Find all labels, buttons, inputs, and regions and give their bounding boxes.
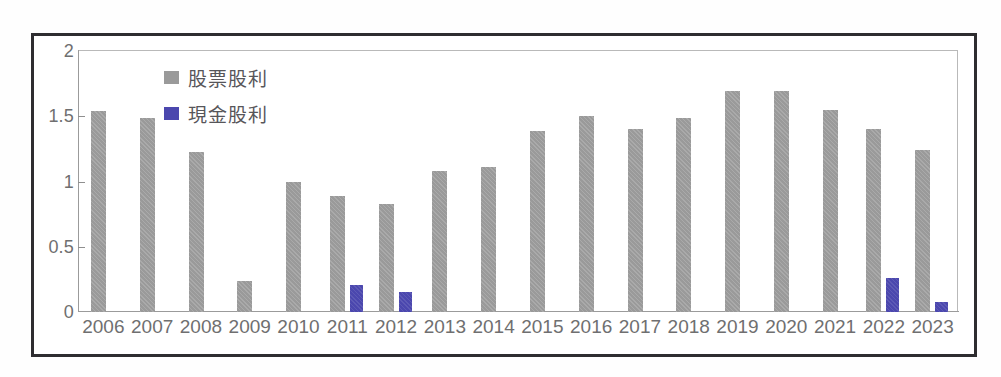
y-axis-tick-labels: 00.511.52 (34, 36, 74, 354)
bar-stock-dividend-2020 (774, 91, 789, 312)
x-axis-tick-2008: 2008 (180, 316, 222, 338)
bar-group-2011 (323, 51, 372, 312)
bar-group-2010 (274, 51, 323, 312)
bar-stock-dividend-2021 (823, 110, 838, 312)
bar-group-2018 (664, 51, 713, 312)
y-axis-tick-1: 1 (36, 171, 74, 192)
legend-item-cash-dividend: 現金股利 (164, 100, 268, 127)
x-axis-tick-2011: 2011 (327, 316, 368, 338)
bar-stock-dividend-2013 (432, 171, 447, 312)
bar-stock-dividend-2016 (579, 116, 594, 312)
bar-group-2017 (616, 51, 665, 312)
x-axis-tick-2014: 2014 (472, 316, 514, 338)
bar-group-2012 (372, 51, 421, 312)
chart-legend: 股票股利 現金股利 (164, 64, 268, 127)
bar-cash-dividend-2012 (399, 292, 412, 312)
bar-cash-dividend-2023 (935, 302, 948, 312)
x-axis-tick-2015: 2015 (521, 316, 563, 338)
legend-label-cash-dividend: 現金股利 (188, 100, 268, 127)
x-axis-tick-2018: 2018 (668, 316, 710, 338)
x-axis-tick-2023: 2023 (911, 316, 953, 338)
bar-group-2014 (469, 51, 518, 312)
x-axis-tick-2007: 2007 (131, 316, 173, 338)
x-axis-tick-2017: 2017 (619, 316, 661, 338)
bar-group-2020 (762, 51, 811, 312)
x-axis-tick-2012: 2012 (375, 316, 417, 338)
bar-stock-dividend-2012 (379, 204, 394, 312)
bar-stock-dividend-2008 (189, 152, 204, 313)
y-axis-tick-mark (78, 116, 85, 117)
x-axis-tick-labels: 2006200720082009201020112012201320142015… (79, 316, 957, 350)
legend-label-stock-dividend: 股票股利 (188, 64, 268, 91)
bar-group-2023 (908, 51, 957, 312)
x-axis-tick-2016: 2016 (570, 316, 612, 338)
y-axis-tick-1.5: 1.5 (36, 106, 74, 127)
bar-stock-dividend-2007 (140, 118, 155, 312)
bar-stock-dividend-2022 (866, 129, 881, 312)
bar-group-2006 (79, 51, 128, 312)
bar-stock-dividend-2009 (237, 281, 252, 312)
y-axis-tick-0.5: 0.5 (36, 236, 74, 257)
x-axis-tick-2019: 2019 (716, 316, 758, 338)
x-axis-tick-2013: 2013 (424, 316, 466, 338)
y-axis-tick-0: 0 (36, 302, 74, 323)
chart-frame: 00.511.52 200620072008200920102011201220… (31, 33, 977, 357)
bar-group-2016 (567, 51, 616, 312)
bar-stock-dividend-2011 (330, 196, 345, 312)
bar-stock-dividend-2023 (915, 150, 930, 312)
bar-stock-dividend-2015 (530, 131, 545, 312)
x-axis-tick-2021: 2021 (814, 316, 856, 338)
bar-group-2019 (713, 51, 762, 312)
bar-group-2013 (420, 51, 469, 312)
y-axis-tick-mark (78, 247, 85, 248)
bar-cash-dividend-2022 (886, 278, 899, 312)
x-axis-tick-2022: 2022 (863, 316, 905, 338)
bar-stock-dividend-2006 (91, 111, 106, 312)
screenshot-root: 00.511.52 200620072008200920102011201220… (0, 0, 1001, 377)
bar-group-2021 (811, 51, 860, 312)
legend-swatch-cash-dividend-icon (164, 107, 179, 120)
x-axis-tick-2009: 2009 (229, 316, 271, 338)
bar-stock-dividend-2019 (725, 91, 740, 312)
y-axis-tick-2: 2 (36, 41, 74, 62)
bar-stock-dividend-2017 (628, 129, 643, 312)
bar-stock-dividend-2010 (286, 182, 301, 313)
y-axis-tick-mark (78, 182, 85, 183)
x-axis-tick-2010: 2010 (277, 316, 319, 338)
bar-stock-dividend-2014 (481, 167, 496, 312)
x-axis-tick-2020: 2020 (765, 316, 807, 338)
bar-group-2015 (518, 51, 567, 312)
x-axis-tick-2006: 2006 (82, 316, 124, 338)
bar-group-2022 (859, 51, 908, 312)
dividend-bar-chart: 00.511.52 200620072008200920102011201220… (34, 36, 974, 354)
bar-stock-dividend-2018 (676, 118, 691, 312)
bar-cash-dividend-2011 (350, 285, 363, 312)
legend-item-stock-dividend: 股票股利 (164, 64, 268, 91)
legend-swatch-stock-dividend-icon (164, 71, 179, 84)
